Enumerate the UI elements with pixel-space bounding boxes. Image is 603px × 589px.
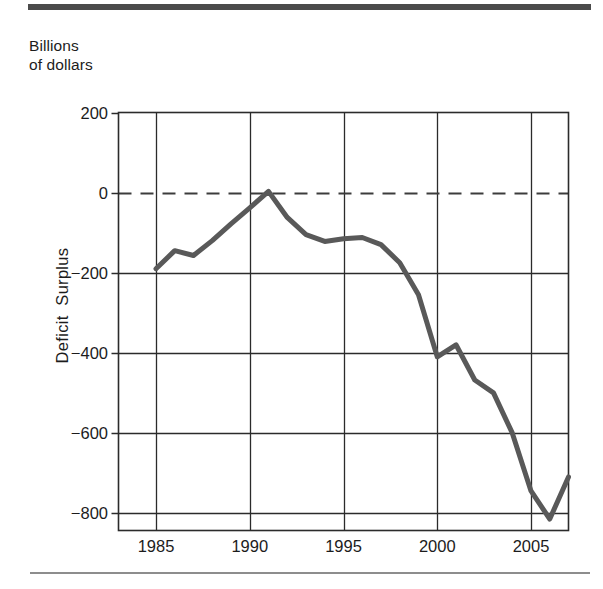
axis-tickmarks — [112, 114, 119, 514]
x-tick-label: 1985 — [116, 537, 196, 556]
x-tick-label: 2000 — [397, 537, 477, 556]
chart-figure: Billions of dollars Deficit Surplus 2000… — [0, 0, 603, 589]
y-tick-label: −400 — [34, 343, 108, 362]
y-tick-label: 0 — [34, 183, 108, 202]
gridlines — [119, 113, 569, 531]
y-tick-label: −200 — [34, 263, 108, 282]
y-tick-label: −600 — [34, 423, 108, 442]
deficit-surplus-line — [156, 191, 569, 519]
y-tick-label: −800 — [34, 504, 108, 523]
x-tick-label: 2005 — [491, 537, 571, 556]
x-tick-label: 1990 — [210, 537, 290, 556]
plot-area — [0, 0, 603, 589]
x-tick-label: 1995 — [304, 537, 384, 556]
bottom-divider-rule — [30, 572, 590, 574]
y-tick-label: 200 — [34, 103, 108, 122]
plot-frame — [119, 113, 569, 531]
